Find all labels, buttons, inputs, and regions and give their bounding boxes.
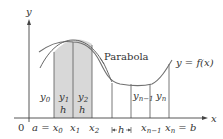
curve-label: y = f(x)	[175, 57, 214, 68]
parabola-label: Parabola	[104, 51, 149, 62]
ordinate-yn: yn	[155, 90, 167, 103]
x-axis-arrow-icon	[202, 116, 208, 120]
h-right-arrow-icon	[128, 129, 131, 132]
x-tick-xn-1: xn−1	[141, 122, 161, 135]
simpson-rule-diagram: y x 0 Parabola y = f(x) y0 y1 y2 yn−1 yn…	[0, 0, 223, 139]
strip-h-label-2: h	[79, 104, 85, 115]
h-interval-label: h	[118, 124, 124, 135]
x-tick-x2: x2	[89, 122, 100, 135]
y-axis-arrow-icon	[27, 19, 31, 25]
strip-h-label-1: h	[60, 104, 66, 115]
x-tick-xn: xn = b	[165, 122, 196, 135]
x-axis-label: x	[211, 113, 217, 124]
ordinate-y0: y0	[39, 91, 51, 104]
axes	[14, 22, 204, 122]
x-tick-x1: x1	[70, 122, 80, 135]
x-tick-x0: a = x0	[32, 122, 63, 135]
h-left-arrow-icon	[112, 129, 115, 132]
origin-label: 0	[18, 122, 24, 133]
y-axis-label: y	[25, 6, 32, 17]
